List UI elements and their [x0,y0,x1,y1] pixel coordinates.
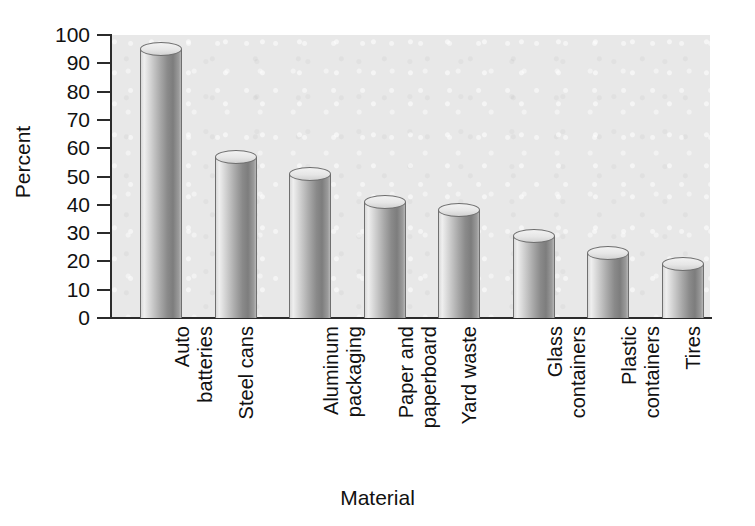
bar-cylinder-cap [364,195,406,209]
bar [662,35,702,318]
y-axis-tick [97,147,110,149]
y-axis-tick-label: 100 [32,24,90,45]
bar-cylinder-body [587,253,629,318]
y-axis-tick-label: 20 [32,250,90,271]
x-axis-tick-label: Paper and paperboard [395,326,441,476]
x-axis-tick-label: Tires [682,326,705,476]
bar [364,35,404,318]
bar-cylinder-cap [438,203,480,217]
y-axis-tick-label: 90 [32,52,90,73]
bar-cylinder-cap [587,246,629,260]
bar [140,35,180,318]
bar [438,35,478,318]
bar-cylinder-body [140,49,182,318]
y-axis-tick [97,34,110,36]
x-axis-tick-label: Plastic containers [618,326,664,476]
bar [513,35,553,318]
bar-cylinder-cap [513,229,555,243]
bar-chart: 1009080706050403020100 Percent Auto batt… [0,0,755,526]
y-axis-tick [97,232,110,234]
x-axis-tick-label: Glass containers [544,326,590,476]
y-axis-tick [97,176,110,178]
bar-cylinder-body [513,236,555,318]
y-axis-line [110,34,112,319]
bar-cylinder-body [662,264,704,318]
y-axis-tick-label: 40 [32,194,90,215]
bar-cylinder-cap [662,257,704,271]
y-axis-tick-label: 60 [32,137,90,158]
y-axis-tick [97,91,110,93]
y-axis-tick-label: 80 [32,81,90,102]
bar-cylinder-body [289,174,331,318]
y-axis-tick-label: 30 [32,222,90,243]
bar-cylinder-cap [289,167,331,181]
y-axis-tick [97,119,110,121]
y-axis-tick [97,289,110,291]
x-axis-tick-label: Steel cans [235,326,258,476]
y-axis-tick [97,260,110,262]
y-axis-title: Percent [11,82,35,242]
y-axis-tick-label: 50 [32,166,90,187]
bar-cylinder-body [438,210,480,318]
bar-cylinder-body [215,157,257,318]
bar-cylinder-cap [215,150,257,164]
y-axis-tick [97,204,110,206]
y-axis-tick-label: 10 [32,279,90,300]
y-axis-tick-labels: 1009080706050403020100 [30,0,90,526]
bar [215,35,255,318]
bar [289,35,329,318]
bar [587,35,627,318]
y-axis-tick-label: 0 [32,307,90,328]
x-axis-tick-label: Aluminum packaging [320,326,366,476]
y-axis-tick [97,62,110,64]
x-axis-title: Material [0,486,755,510]
bar-cylinder-body [364,202,406,318]
x-axis-tick-label: Yard waste [458,326,481,476]
bar-cylinder-cap [140,42,182,56]
y-axis-tick-label: 70 [32,109,90,130]
y-axis-tick [97,317,110,319]
x-axis-tick-label: Auto batteries [171,326,217,476]
